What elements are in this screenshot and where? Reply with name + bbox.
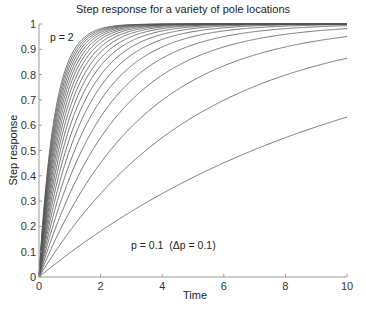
y-tick-label: 0.2 <box>21 220 36 232</box>
y-tick-label: 0.9 <box>21 43 36 55</box>
y-tick-label: 1 <box>30 18 36 30</box>
step-response-chart: 024681000.10.20.30.40.50.60.70.80.91 <box>0 0 366 311</box>
y-tick-label: 0.8 <box>21 69 36 81</box>
y-tick-label: 0.6 <box>21 119 36 131</box>
x-tick-label: 0 <box>36 280 42 292</box>
annotation-p-max: p = 2 <box>50 31 74 43</box>
x-tick-label: 6 <box>221 280 227 292</box>
chart-title: Step response for a variety of pole loca… <box>0 3 366 15</box>
x-axis-label: Time <box>175 289 215 301</box>
y-tick-label: 0.3 <box>21 195 36 207</box>
annotation-p-min: p = 0.1 (Δp = 0.1) <box>131 239 216 251</box>
x-tick-label: 4 <box>159 280 165 292</box>
y-axis-label: Step response <box>7 105 19 195</box>
x-tick-label: 2 <box>98 280 104 292</box>
x-tick-label: 8 <box>282 280 288 292</box>
y-tick-label: 0.1 <box>21 246 36 258</box>
y-tick-label: 0.4 <box>21 170 36 182</box>
y-tick-label: 0.7 <box>21 94 36 106</box>
y-tick-label: 0 <box>30 271 36 283</box>
x-tick-label: 10 <box>341 280 353 292</box>
curve-p0_1 <box>39 117 347 277</box>
y-tick-label: 0.5 <box>21 145 36 157</box>
